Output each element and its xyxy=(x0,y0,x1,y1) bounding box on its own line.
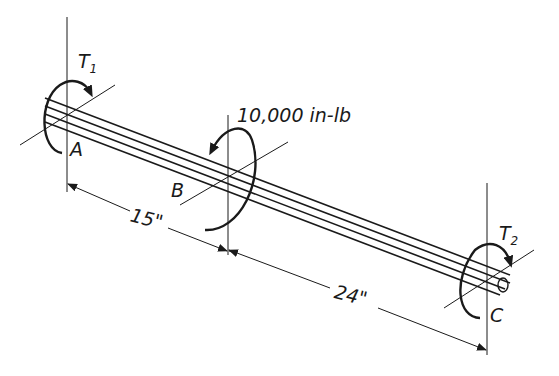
label-applied-torque: 10,000 in-lb xyxy=(237,104,351,126)
label-t1: T1 xyxy=(78,50,97,76)
shaft xyxy=(45,98,510,295)
torque-applied-arrow xyxy=(205,129,255,231)
label-a: A xyxy=(68,138,83,160)
label-c: C xyxy=(490,304,504,326)
label-dim-bc: 24" xyxy=(332,280,369,309)
label-t2: T2 xyxy=(499,222,518,248)
label-dim-ab: 15" xyxy=(128,204,165,233)
shaft-diagram: T1 A 10,000 in-lb B 15" 24" T2 C xyxy=(0,0,559,376)
label-b: B xyxy=(171,179,184,201)
